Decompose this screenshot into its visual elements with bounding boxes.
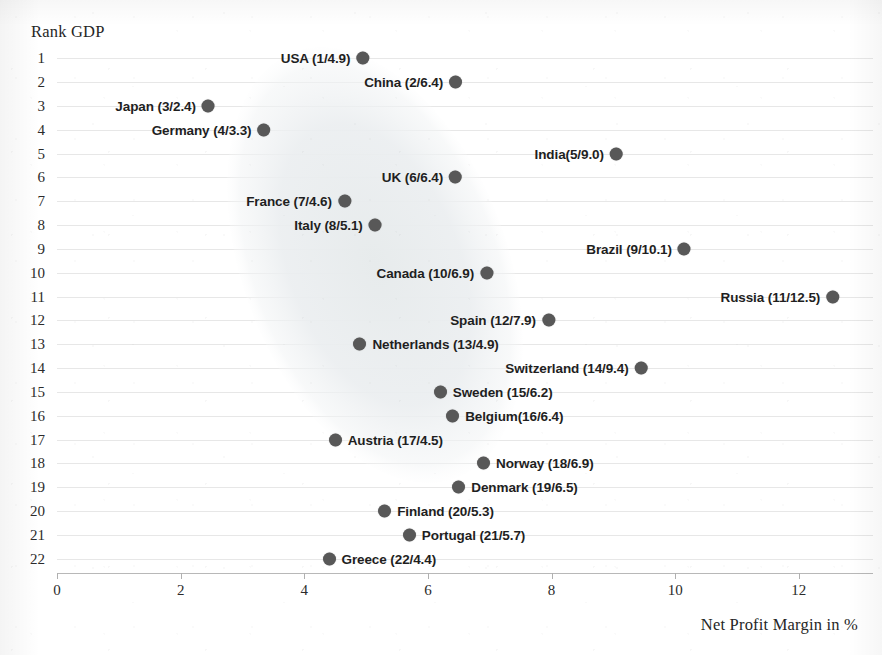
data-point-label: Canada (10/6.9) — [376, 265, 474, 280]
data-point-netherlands[interactable]: Netherlands (13/4.9) — [353, 337, 498, 352]
data-point-marker[interactable] — [452, 481, 465, 494]
gridline — [57, 154, 873, 155]
y-axis-tick: 22 — [19, 550, 45, 567]
y-axis-tick: 20 — [19, 503, 45, 520]
data-point-label: India(5/9.0) — [535, 146, 604, 161]
data-point-marker[interactable] — [635, 362, 648, 375]
data-point-uk[interactable]: UK (6/6.4) — [382, 170, 462, 185]
data-point-label: Denmark (19/6.5) — [471, 480, 577, 495]
x-axis-tickmark — [304, 573, 305, 579]
data-point-marker[interactable] — [353, 338, 366, 351]
data-point-brazil[interactable]: Brazil (9/10.1) — [586, 241, 691, 256]
scatter-chart: Rank GDP USA (1/4.9)China (2/6.4)Japan (… — [0, 0, 882, 655]
y-axis-tick: 7 — [19, 193, 45, 210]
y-axis-title: Rank GDP — [31, 22, 105, 42]
data-point-usa[interactable]: USA (1/4.9) — [281, 51, 370, 66]
data-point-label: Belgium(16/6.4) — [465, 408, 563, 423]
x-axis-title: Net Profit Margin in % — [701, 615, 858, 635]
data-point-marker[interactable] — [477, 457, 490, 470]
data-point-label: Greece (22/4.4) — [342, 551, 437, 566]
data-point-label: Russia (11/12.5) — [721, 289, 821, 304]
data-point-label: Switzerland (14/9.4) — [505, 361, 628, 376]
data-point-india[interactable]: India(5/9.0) — [535, 146, 623, 161]
data-point-italy[interactable]: Italy (8/5.1) — [294, 218, 381, 233]
data-point-label: Germany (4/3.3) — [152, 122, 252, 137]
data-point-marker[interactable] — [338, 195, 351, 208]
data-point-marker[interactable] — [610, 147, 623, 160]
x-axis-tickmark — [181, 573, 182, 579]
data-point-switzerland[interactable]: Switzerland (14/9.4) — [505, 361, 647, 376]
y-axis-tick: 17 — [19, 431, 45, 448]
data-point-denmark[interactable]: Denmark (19/6.5) — [452, 480, 577, 495]
data-point-marker[interactable] — [323, 552, 336, 565]
y-axis-tick: 6 — [19, 169, 45, 186]
data-point-portugal[interactable]: Portugal (21/5.7) — [403, 527, 525, 542]
data-point-marker[interactable] — [356, 52, 369, 65]
data-point-label: Netherlands (13/4.9) — [372, 337, 498, 352]
x-axis-tick: 0 — [53, 582, 61, 599]
data-point-label: Spain (12/7.9) — [450, 313, 536, 328]
data-point-china[interactable]: China (2/6.4) — [364, 75, 462, 90]
data-point-marker[interactable] — [369, 219, 382, 232]
y-axis-tick: 3 — [19, 97, 45, 114]
y-axis-tick: 2 — [19, 74, 45, 91]
data-point-label: Brazil (9/10.1) — [586, 241, 672, 256]
x-axis-tickmark — [675, 573, 676, 579]
y-axis-tick: 1 — [19, 50, 45, 67]
data-point-belgium[interactable]: Belgium(16/6.4) — [446, 408, 563, 423]
data-point-label: UK (6/6.4) — [382, 170, 443, 185]
data-point-label: France (7/4.6) — [246, 194, 332, 209]
y-axis-tick: 14 — [19, 360, 45, 377]
x-axis-tick: 2 — [177, 582, 185, 599]
data-point-label: Norway (18/6.9) — [496, 456, 594, 471]
data-point-marker[interactable] — [826, 290, 839, 303]
data-point-marker[interactable] — [449, 76, 462, 89]
y-axis-tick: 9 — [19, 240, 45, 257]
gridline — [57, 559, 873, 560]
data-point-sweden[interactable]: Sweden (15/6.2) — [434, 384, 553, 399]
data-point-marker[interactable] — [678, 242, 691, 255]
x-axis-tick: 4 — [301, 582, 309, 599]
data-point-marker[interactable] — [378, 505, 391, 518]
data-point-russia[interactable]: Russia (11/12.5) — [721, 289, 840, 304]
data-point-marker[interactable] — [434, 385, 447, 398]
data-point-canada[interactable]: Canada (10/6.9) — [376, 265, 493, 280]
data-point-label: Austria (17/4.5) — [348, 432, 443, 447]
y-axis-tick: 4 — [19, 121, 45, 138]
gridline — [57, 82, 873, 83]
data-point-marker[interactable] — [258, 123, 271, 136]
data-point-germany[interactable]: Germany (4/3.3) — [152, 122, 271, 137]
data-point-finland[interactable]: Finland (20/5.3) — [378, 504, 494, 519]
data-point-label: USA (1/4.9) — [281, 51, 351, 66]
y-axis-tick: 5 — [19, 145, 45, 162]
x-axis-tickmark — [799, 573, 800, 579]
data-point-marker[interactable] — [542, 314, 555, 327]
data-point-marker[interactable] — [403, 528, 416, 541]
data-point-marker[interactable] — [480, 266, 493, 279]
x-axis-tick: 8 — [548, 582, 556, 599]
gridline — [57, 58, 873, 59]
gridline — [57, 368, 873, 369]
data-point-marker[interactable] — [449, 171, 462, 184]
y-axis-tick: 15 — [19, 383, 45, 400]
data-point-marker[interactable] — [202, 99, 215, 112]
x-axis-tickmark — [428, 573, 429, 579]
data-point-marker[interactable] — [329, 433, 342, 446]
plot-area: USA (1/4.9)China (2/6.4)Japan (3/2.4)Ger… — [57, 44, 873, 573]
data-point-label: Portugal (21/5.7) — [422, 527, 525, 542]
data-point-france[interactable]: France (7/4.6) — [246, 194, 351, 209]
gridline — [57, 201, 873, 202]
data-point-label: Italy (8/5.1) — [294, 218, 362, 233]
data-point-label: Sweden (15/6.2) — [453, 384, 553, 399]
x-axis-tickmark — [552, 573, 553, 579]
data-point-greece[interactable]: Greece (22/4.4) — [323, 551, 437, 566]
data-point-label: Japan (3/2.4) — [115, 98, 196, 113]
x-axis-tick: 10 — [668, 582, 683, 599]
data-point-marker[interactable] — [446, 409, 459, 422]
data-point-austria[interactable]: Austria (17/4.5) — [329, 432, 443, 447]
data-point-japan[interactable]: Japan (3/2.4) — [115, 98, 215, 113]
gridline — [57, 225, 873, 226]
data-point-spain[interactable]: Spain (12/7.9) — [450, 313, 555, 328]
data-point-norway[interactable]: Norway (18/6.9) — [477, 456, 594, 471]
y-axis-tick: 12 — [19, 312, 45, 329]
